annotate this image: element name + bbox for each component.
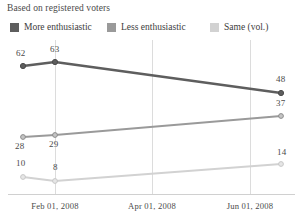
- data-label: 8: [53, 162, 58, 172]
- data-point: [21, 175, 26, 180]
- data-label: 29: [49, 139, 58, 149]
- data-label: 37: [276, 98, 285, 108]
- data-label: 14: [277, 147, 286, 157]
- data-label: 63: [50, 44, 59, 54]
- x-tick-label-jun: Jun 01, 2008: [210, 201, 290, 211]
- data-label: 28: [15, 141, 24, 151]
- data-label: 48: [276, 74, 285, 84]
- data-point: [20, 63, 25, 68]
- data-point: [53, 179, 58, 184]
- data-point: [278, 90, 283, 95]
- x-tick-label-feb: Feb 01, 2008: [15, 201, 95, 211]
- data-point: [279, 114, 284, 119]
- data-point: [52, 59, 57, 64]
- plot-area: [0, 0, 303, 221]
- data-point: [21, 135, 26, 140]
- chart-container: Based on registered voters More enthusia…: [0, 0, 303, 221]
- data-label: 10: [16, 158, 25, 168]
- data-point: [279, 162, 284, 167]
- data-point: [53, 133, 58, 138]
- data-label: 62: [16, 48, 25, 58]
- x-tick-label-apr: Apr 01, 2008: [112, 201, 192, 211]
